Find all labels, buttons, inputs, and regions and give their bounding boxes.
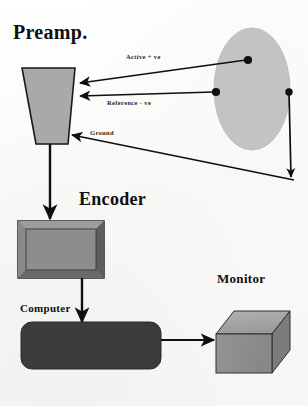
label-active-positive: Active + ve [126, 54, 161, 61]
reference-signal-line [80, 92, 214, 96]
monitor-cube-front-face [216, 334, 272, 373]
active-electrode-dot [244, 56, 252, 64]
label-reference-negative: Reference - ve [107, 100, 151, 107]
diagram-page: Preamp. Encoder Computer Monitor Active … [0, 0, 308, 406]
label-computer: Computer [20, 303, 71, 314]
reference-electrode-dot [212, 88, 220, 96]
label-monitor: Monitor [217, 272, 265, 285]
signal-chain-diagram [0, 0, 308, 406]
head-ellipse [214, 28, 290, 150]
ground-electrode-drop-line [289, 92, 291, 177]
ground-electrode-dot [285, 88, 292, 95]
preamp-trapezoid [22, 68, 75, 144]
label-encoder: Encoder [79, 190, 146, 208]
page-title-preamp: Preamp. [13, 22, 88, 42]
label-ground: Ground [90, 130, 114, 137]
monitor-cube [216, 311, 290, 373]
computer-rounded-rect [21, 322, 161, 369]
encoder-box [18, 221, 104, 278]
